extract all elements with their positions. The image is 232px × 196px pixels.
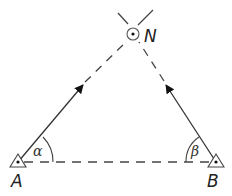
ray-a-extension [138,10,153,25]
label-beta: β [190,143,199,159]
ray-b-dashed [139,42,164,81]
ray-a-dashed [85,40,128,82]
diagram-svg: N A B α β [0,0,232,196]
point-n-marker [127,28,139,40]
label-a: A [10,171,23,191]
label-n: N [144,26,157,46]
alpha-arc [43,137,53,162]
ray-b-extension [118,13,128,24]
label-b: B [207,171,219,191]
label-alpha: α [33,143,43,159]
triangulation-diagram: N A B α β [0,0,232,196]
ray-a-arrow [18,85,83,162]
point-b-marker [208,154,224,167]
